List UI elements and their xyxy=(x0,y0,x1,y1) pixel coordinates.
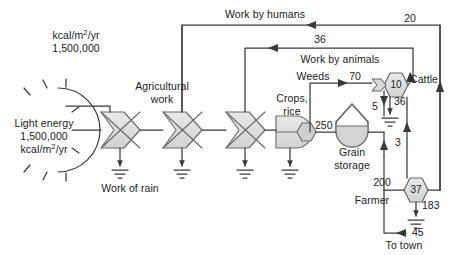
work-of-rain-label: Work of rain xyxy=(101,182,159,195)
flow-value-45: 45 xyxy=(412,226,424,238)
crops-rice-label-line1: Crops, xyxy=(276,92,308,105)
weeds-label: Weeds xyxy=(297,70,330,83)
interaction-symbol-1 xyxy=(101,112,140,148)
flow-value-5: 5 xyxy=(372,100,378,112)
flow-value-36: 36 xyxy=(314,33,326,45)
units-note-line1: kcal/m2/yr xyxy=(52,29,99,42)
cattle-to-farmer-arrowhead xyxy=(403,122,411,132)
heat-sink-crops xyxy=(282,148,298,178)
agricultural-work-label-line2: work xyxy=(151,93,174,106)
work-by-animals-label: Work by animals xyxy=(301,53,380,66)
farmer-heat-sink-value: 183 xyxy=(422,199,440,211)
interaction-symbol-2 xyxy=(163,112,202,148)
heat-sink-3 xyxy=(237,148,253,178)
cattle-heat-sink-value: 36 xyxy=(394,95,406,107)
heat-sink-2 xyxy=(174,148,190,178)
work-by-animals-arrowhead xyxy=(268,44,278,52)
cattle-storage-value: 10 xyxy=(390,79,401,90)
to-town-label: To town xyxy=(386,239,423,252)
flow-value-70: 70 xyxy=(349,70,361,82)
to-town-arrowhead xyxy=(396,229,406,237)
grain-storage-label-line2: storage xyxy=(334,159,370,172)
work-by-humans-feedback-path xyxy=(182,25,440,190)
farmer-work-output-line xyxy=(428,25,440,190)
grain-storage-tank-symbol xyxy=(336,104,368,147)
flow-value-200: 200 xyxy=(373,176,391,188)
grain-storage-label-line1: Grain xyxy=(339,146,365,159)
agricultural-work-label-line1: Agricultural xyxy=(135,80,189,93)
grain-to-cattle-arrowhead xyxy=(380,96,388,106)
cattle-label: Cattle xyxy=(410,73,438,86)
source-label-line1: Light energy xyxy=(15,117,74,130)
cattle-input-interaction xyxy=(372,79,386,91)
work-by-humans-label: Work by humans xyxy=(225,8,305,21)
crops-rice-label-line2: rice xyxy=(283,105,300,118)
farmer-storage-value: 37 xyxy=(410,184,421,195)
diagram-canvas: kcal/m2/yr 1,500,000 Light energy 1,500,… xyxy=(0,0,455,255)
flow-value-250: 250 xyxy=(315,119,333,131)
units-note-line2: 1,500,000 xyxy=(52,42,100,55)
flow-value-20: 20 xyxy=(404,12,416,24)
grain-to-farmer-arrowhead xyxy=(380,140,388,150)
work-by-humans-arrowhead xyxy=(306,21,316,29)
interaction-symbol-3 xyxy=(226,112,265,148)
weeds-arrowhead xyxy=(338,79,348,87)
farmer-label: Farmer xyxy=(355,194,389,207)
heat-sink-1 xyxy=(112,148,128,178)
flow-value-3: 3 xyxy=(395,136,401,148)
source-label-line3: kcal/m2/yr xyxy=(20,143,67,156)
source-label-line2: 1,500,000 xyxy=(20,130,68,143)
